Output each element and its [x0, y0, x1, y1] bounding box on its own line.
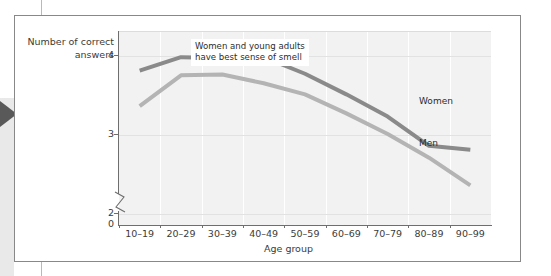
x-tick-mark [326, 225, 327, 228]
x-tick-mark [450, 225, 451, 228]
x-tick-labels: 10–1920–2930–3940–4950–5960–6970–7980–89… [119, 228, 491, 244]
y-tick-mark [114, 134, 118, 135]
y-tick-label: 2 [74, 207, 114, 218]
y-tick-label: 3 [74, 128, 114, 139]
page-root: Number of correct answers 0234 10–1920–2… [0, 0, 551, 276]
chart-annotation: Women and young adults have best sense o… [191, 39, 309, 66]
x-tick-mark [160, 225, 161, 228]
series-line-men [140, 75, 471, 186]
y-tick-labels: 0234 [70, 0, 114, 276]
x-axis-title: Age group [0, 243, 551, 254]
y-axis-line [118, 31, 119, 194]
x-axis-line [118, 225, 492, 226]
y-tick-label: 4 [74, 49, 114, 60]
x-axis-title-text: Age group [264, 243, 313, 254]
series-label-men: Men [419, 138, 438, 148]
y-tick-mark [114, 213, 118, 214]
series-label-women: Women [419, 96, 453, 106]
y-tick-label: 0 [74, 218, 114, 229]
x-tick-mark [367, 225, 368, 228]
x-tick-mark [284, 225, 285, 228]
x-tick-mark [243, 225, 244, 228]
x-tick-mark [202, 225, 203, 228]
x-tick-mark [408, 225, 409, 228]
x-tick-label: 90–99 [443, 228, 497, 239]
x-tick-mark [119, 225, 120, 228]
y-tick-mark [114, 55, 118, 56]
